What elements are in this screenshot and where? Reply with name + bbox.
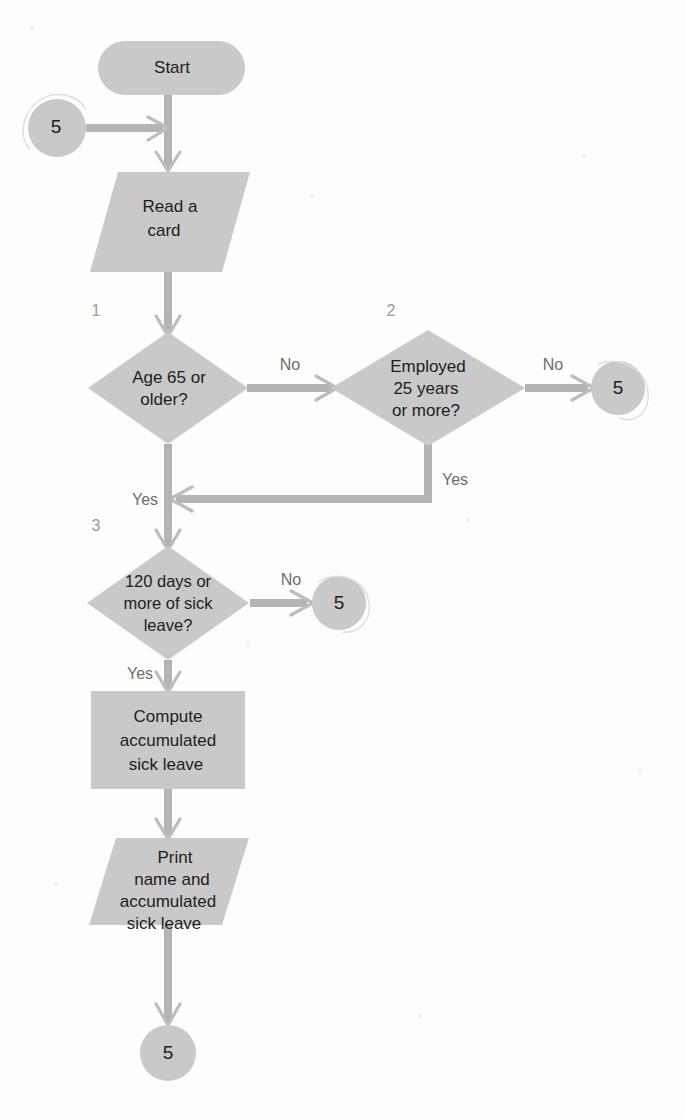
flowchart-svg: Start 5 Read a card 1 Age 65 or older? 2… — [0, 0, 686, 1119]
node-print-line2: name and — [134, 870, 210, 889]
node-entry-connector-label: 5 — [51, 116, 62, 137]
node-compute-box[interactable]: Compute accumulated sick leave — [91, 691, 245, 789]
edge-employed-no-to-connector — [525, 376, 594, 400]
step-label-1: 1 — [92, 302, 101, 319]
node-print-line1: Print — [158, 848, 193, 867]
node-connector-employed-no[interactable]: 5 — [591, 361, 648, 420]
node-read-card-line1: Read a — [143, 197, 198, 216]
edge-label-age-yes: Yes — [132, 491, 158, 508]
node-decision-age-line2: older? — [140, 390, 187, 409]
node-compute-line3: sick leave — [129, 755, 204, 774]
edge-employed-yes-to-merge — [170, 444, 428, 511]
node-entry-connector[interactable]: 5 — [23, 95, 86, 157]
edge-sick-yes-to-compute — [156, 660, 180, 692]
node-decision-sick-line1: 120 days or — [125, 572, 212, 590]
edge-compute-to-print — [156, 789, 180, 839]
node-decision-sick-line2: more of sick — [124, 594, 214, 612]
edge-label-sick-yes: Yes — [127, 665, 153, 682]
edge-label-employed-yes: Yes — [442, 471, 468, 488]
node-read-card[interactable]: Read a card — [90, 172, 250, 272]
step-label-2: 2 — [387, 302, 396, 319]
node-print-line4: sick leave — [127, 914, 202, 933]
node-print-box[interactable]: Print name and accumulated sick leave — [89, 838, 249, 933]
edge-label-sick-no: No — [281, 571, 302, 588]
node-connector-end[interactable]: 5 — [140, 1025, 196, 1081]
edge-print-to-end-connector — [156, 925, 180, 1025]
node-decision-employed[interactable]: Employed 25 years or more? — [331, 330, 525, 446]
node-start[interactable]: Start — [98, 41, 245, 95]
edge-sick-no-to-connector — [250, 591, 313, 615]
node-decision-employed-line2: 25 years — [393, 379, 458, 398]
edge-age-no-to-employed — [247, 376, 337, 400]
node-decision-sick-leave[interactable]: 120 days or more of sick leave? — [87, 546, 249, 660]
edge-entry-connector-to-trunk — [86, 117, 168, 140]
node-connector-end-label: 5 — [163, 1042, 174, 1063]
flowchart-canvas: Start 5 Read a card 1 Age 65 or older? 2… — [0, 0, 686, 1119]
node-compute-line2: accumulated — [120, 731, 216, 750]
node-connector-sick-no[interactable]: 5 — [312, 576, 369, 632]
node-connector-employed-no-label: 5 — [613, 377, 624, 398]
node-read-card-line2: card — [147, 221, 180, 240]
node-connector-sick-no-label: 5 — [334, 592, 345, 613]
edge-read-to-age — [156, 272, 180, 336]
node-print-line3: accumulated — [120, 892, 216, 911]
node-decision-sick-line3: leave? — [144, 616, 193, 634]
node-decision-age[interactable]: Age 65 or older? — [88, 332, 248, 444]
node-decision-employed-line3: or more? — [392, 401, 460, 420]
node-decision-age-line1: Age 65 or — [132, 368, 206, 387]
node-decision-employed-line1: Employed — [390, 357, 466, 376]
node-start-label: Start — [154, 58, 190, 77]
step-label-3: 3 — [92, 517, 101, 534]
edge-label-employed-no: No — [543, 356, 564, 373]
node-compute-line1: Compute — [134, 707, 203, 726]
edge-label-age-no: No — [280, 356, 301, 373]
